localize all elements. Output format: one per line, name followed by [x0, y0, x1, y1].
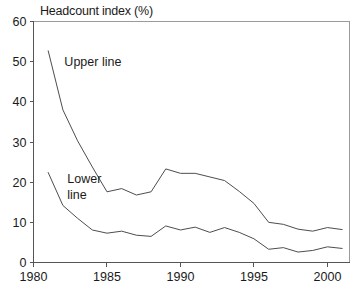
annotation-label: Lower [67, 172, 101, 186]
y-tick-label: 10 [13, 216, 27, 230]
y-tick-label: 40 [13, 95, 27, 109]
y-tick-label: 20 [13, 176, 27, 190]
x-axis-ticks: 19801985199019952000 [20, 263, 342, 284]
x-tick-label: 2000 [314, 270, 342, 284]
x-tick-label: 1995 [240, 270, 268, 284]
y-tick-label: 50 [13, 55, 27, 69]
annotation-label: line [67, 188, 87, 202]
x-tick-label: 1980 [20, 270, 48, 284]
series-line-upper-line [48, 51, 342, 231]
y-axis-ticks: 0102030405060 [13, 15, 34, 270]
y-tick-label: 30 [13, 136, 27, 150]
line-chart-plot: 0102030405060 19801985199019952000 Upper… [0, 0, 361, 299]
data-series-group [48, 51, 342, 252]
y-tick-label: 60 [13, 15, 27, 29]
chart-figure: Headcount index (%) 0102030405060 198019… [0, 0, 361, 299]
series-annotations: Upper lineLowerline [64, 55, 121, 202]
x-tick-label: 1990 [167, 270, 195, 284]
y-tick-label: 0 [20, 256, 27, 270]
annotation-label: Upper line [64, 55, 121, 69]
x-tick-label: 1985 [93, 270, 121, 284]
